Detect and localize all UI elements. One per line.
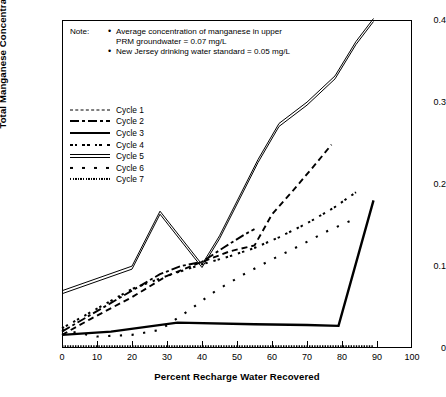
series-line-cycle-1 <box>62 145 332 335</box>
chart-figure: Total Manganese Concentration (mg/l) 0.4… <box>0 0 446 397</box>
series-line-cycle-3 <box>62 200 374 334</box>
series-line-cycle-5-upper <box>62 19 374 291</box>
series-line-cycle-5-lower <box>62 22 374 294</box>
series-cycle-6 <box>62 218 356 336</box>
series-cycle-4 <box>62 192 356 328</box>
data-curves <box>0 0 446 397</box>
series-cycle-3 <box>62 200 374 334</box>
series-line-cycle-4 <box>62 192 356 328</box>
series-cycle-1 <box>62 145 332 335</box>
series-line-cycle-6 <box>62 218 356 336</box>
